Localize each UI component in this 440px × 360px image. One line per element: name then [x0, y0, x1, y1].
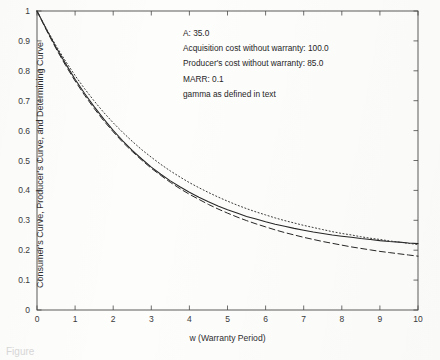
x-tick-label: 0	[35, 314, 40, 324]
chart-figure: 00.10.20.30.40.50.60.70.80.91 0123456789…	[0, 0, 440, 360]
y-tick-label: 0.6	[0, 126, 30, 136]
x-tick-label: 3	[149, 314, 154, 324]
x-axis-label: w (Warranty Period)	[37, 333, 418, 343]
annotation-line: A: 35.0	[183, 26, 413, 41]
x-tick-label: 2	[111, 314, 116, 324]
x-tick-label: 7	[301, 314, 306, 324]
y-tick-label: 1	[0, 6, 30, 16]
figure-caption: Figure	[6, 346, 34, 357]
x-tick-label: 8	[339, 314, 344, 324]
annotation-line: Producer's cost without warranty: 85.0	[183, 56, 413, 71]
annotation-line: gamma as defined in text	[183, 87, 413, 102]
y-tick-label: 0.7	[0, 96, 30, 106]
x-tick-label: 9	[378, 314, 383, 324]
x-tick-label: 6	[263, 314, 268, 324]
y-tick-label: 0.2	[0, 245, 30, 255]
annotation-line: MARR: 0.1	[183, 72, 413, 87]
x-tick-label: 10	[413, 314, 422, 324]
y-tick-label: 0.4	[0, 185, 30, 195]
annotation-line: Acquisition cost without warranty: 100.0	[183, 41, 413, 56]
x-tick-label: 4	[187, 314, 192, 324]
y-tick-label: 0.9	[0, 36, 30, 46]
y-tick-label: 0.5	[0, 156, 30, 166]
x-tick-label: 5	[225, 314, 230, 324]
y-tick-label: 0.3	[0, 215, 30, 225]
y-tick-label: 0.1	[0, 275, 30, 285]
y-tick-label: 0.8	[0, 66, 30, 76]
figure-page: 00.10.20.30.40.50.60.70.80.91 0123456789…	[0, 0, 440, 360]
y-axis-label: Consumer's Curve, Producer's Curve, and …	[35, 30, 45, 300]
x-tick-label: 1	[73, 314, 78, 324]
chart-annotations: A: 35.0Acquisition cost without warranty…	[183, 26, 413, 102]
y-tick-label: 0	[0, 305, 30, 315]
